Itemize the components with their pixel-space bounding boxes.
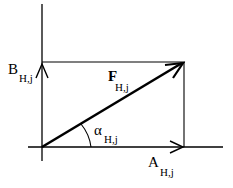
label-b: B [8,61,18,77]
label-alpha: α [94,122,102,138]
label-a: A [148,154,159,170]
label-f-subscript: H,j [115,81,129,93]
label-b-subscript: H,j [19,72,33,84]
label-alpha-subscript: H,j [104,133,118,145]
label-a-subscript: H,j [160,166,174,178]
angle-arc [81,124,91,147]
vector-diagram: B H,j F H,j α H,j A H,j [0,0,233,188]
